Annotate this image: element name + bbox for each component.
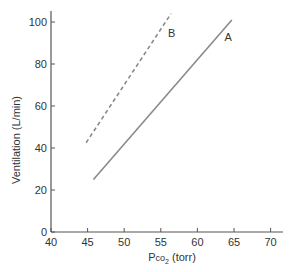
x-tick-label: 45 — [81, 236, 93, 248]
series-label-b: B — [168, 27, 175, 39]
x-axis-label-sub-pre: co — [156, 253, 166, 263]
x-tick-label: 50 — [118, 236, 130, 248]
y-tick-label: 20 — [35, 184, 47, 196]
x-tick-label: 60 — [191, 236, 203, 248]
y-tick-label: 80 — [35, 58, 47, 70]
series-line-b — [86, 14, 171, 143]
y-axis-label: Ventilation (L/min) — [10, 96, 22, 184]
x-axis-label-main: P — [148, 251, 155, 263]
x-ticks: 40455055606570 — [45, 228, 277, 248]
y-tick-label: 100 — [29, 16, 47, 28]
y-tick-label: 60 — [35, 100, 47, 112]
chart: 020406080100 40455055606570 AB Ventilati… — [0, 0, 292, 272]
series-label-a: A — [224, 31, 232, 43]
y-tick-label: 40 — [35, 142, 47, 154]
series: AB — [86, 14, 232, 180]
x-axis-label: Pco2 (torr) — [148, 251, 196, 265]
x-axis-label-unit: (torr) — [169, 251, 196, 263]
axes — [51, 11, 283, 232]
x-tick-label: 55 — [155, 236, 167, 248]
x-tick-label: 40 — [45, 236, 57, 248]
x-tick-label: 70 — [264, 236, 276, 248]
x-tick-label: 65 — [228, 236, 240, 248]
